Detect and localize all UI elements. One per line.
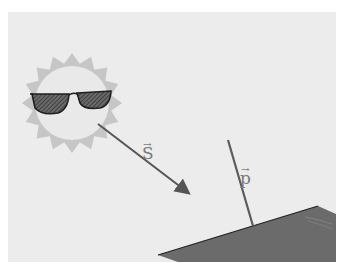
diagram-svg (0, 0, 344, 273)
vector-arrow-symbol: → (143, 140, 151, 150)
diagram-canvas: → S → p (0, 0, 344, 273)
sun-icon (22, 53, 122, 153)
vector-p-label: → p (240, 170, 251, 187)
vector-s-label: → S (142, 145, 154, 162)
vector-arrow-symbol: → (241, 165, 249, 175)
